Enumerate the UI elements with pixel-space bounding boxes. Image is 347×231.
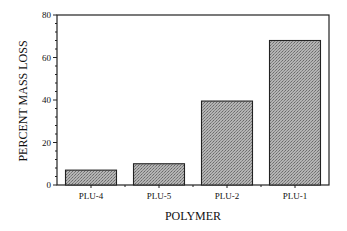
x-tick-label: PLU-2 bbox=[215, 191, 240, 201]
x-tick-label: PLU-5 bbox=[147, 191, 172, 201]
x-tick-label: PLU-1 bbox=[283, 191, 308, 201]
y-tick-label: 40 bbox=[42, 95, 52, 105]
bar-plu-5 bbox=[134, 164, 185, 185]
y-axis-label: PERCENT MASS LOSS bbox=[16, 40, 30, 161]
bar-plu-4 bbox=[66, 170, 117, 185]
y-tick-label: 20 bbox=[42, 138, 52, 148]
y-tick-label: 60 bbox=[42, 53, 52, 63]
x-axis: PLU-4PLU-5PLU-2PLU-1 bbox=[79, 185, 308, 201]
y-tick-label: 80 bbox=[42, 10, 52, 20]
x-tick-label: PLU-4 bbox=[79, 191, 104, 201]
bar-plu-2 bbox=[202, 101, 253, 185]
bar-plu-1 bbox=[270, 41, 321, 186]
x-axis-label: POLYMER bbox=[165, 209, 221, 223]
y-tick-label: 0 bbox=[47, 180, 52, 190]
bar-chart: 020406080 PLU-4PLU-5PLU-2PLU-1 PERCENT M… bbox=[0, 0, 347, 231]
bars bbox=[66, 41, 321, 186]
y-axis: 020406080 bbox=[42, 10, 57, 190]
